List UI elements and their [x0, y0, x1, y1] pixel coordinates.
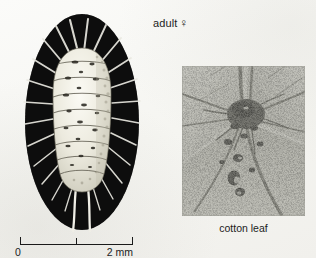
scale-label-start: 0 [15, 246, 21, 258]
figure-container: adult♀ [0, 0, 316, 258]
mealybug-specimen-illustration [18, 12, 146, 233]
adult-female-label: adult♀ [153, 16, 188, 30]
cotton-leaf-caption: cotton leaf [182, 222, 305, 234]
cotton-leaf-photograph [182, 66, 305, 216]
female-symbol-icon: ♀ [177, 16, 188, 30]
scale-label-end: 2 mm [107, 246, 133, 258]
scale-bar [20, 236, 133, 246]
adult-label-text: adult [153, 17, 177, 29]
